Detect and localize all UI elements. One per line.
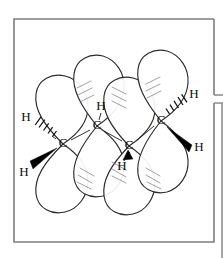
atom-label-c1: C: [59, 135, 68, 150]
atom-label-c2: C: [93, 117, 102, 132]
atom-label-c4: C: [157, 112, 166, 127]
figure-frame: [14, 19, 223, 258]
orbital-diagram-canvas: C C C C H H H H H H: [0, 0, 223, 258]
atom-label-h6: H: [194, 139, 203, 154]
atom-label-h3: H: [96, 98, 105, 113]
atom-label-h4: H: [117, 158, 126, 173]
orbital-diagram-figure: C C C C H H H H H H: [0, 0, 223, 258]
atom-label-h2: H: [19, 164, 28, 179]
atom-label-h5: H: [189, 86, 198, 101]
atom-label-c3: C: [125, 137, 134, 152]
atom-label-h1: H: [21, 109, 30, 124]
